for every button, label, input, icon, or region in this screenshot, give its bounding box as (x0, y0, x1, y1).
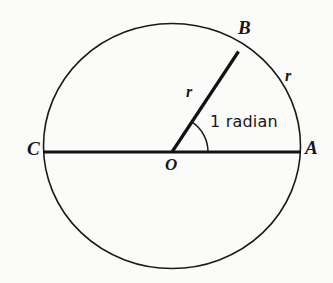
center-label-o: O (165, 156, 177, 173)
point-label-b: B (238, 18, 251, 37)
radian-diagram-figure: B C A O r r 1 radian (0, 0, 333, 283)
radian-diagram-svg (0, 0, 333, 283)
point-label-a: A (305, 138, 318, 157)
angle-measure-label: 1 radian (210, 114, 278, 130)
point-label-c: C (27, 139, 40, 158)
radius-length-label: r (186, 84, 192, 100)
arc-length-label: r (285, 68, 291, 84)
circle-outline (44, 24, 301, 269)
angle-arc-indicator (192, 122, 208, 152)
